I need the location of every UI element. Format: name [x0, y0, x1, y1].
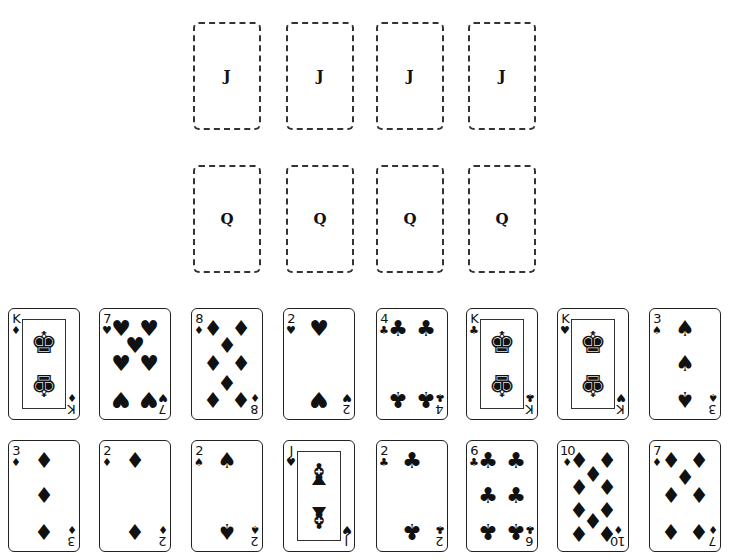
slot-label: Q: [403, 210, 416, 228]
clubs-pip-icon: ♣: [478, 485, 498, 507]
card-corner-index: 2♥: [286, 312, 296, 336]
clubs-pip-icon: ♣: [388, 388, 408, 410]
hearts-icon: ♥: [560, 325, 570, 336]
card-2-of-clubs[interactable]: 2♣2♣♣♣: [376, 440, 448, 552]
court-figure-icon: ♝: [298, 452, 340, 496]
jack-foundation-slot[interactable]: J: [376, 22, 444, 130]
spades-pip-icon: ♠: [675, 388, 695, 410]
card-corner-index: 2♠: [194, 444, 204, 468]
card-7-of-hearts[interactable]: 7♥7♥♥♥♥♥♥♥♥: [99, 308, 171, 420]
hearts-icon: ♥: [616, 392, 626, 403]
spades-pip-icon: ♠: [217, 450, 237, 472]
diamonds-pip-icon: ♦: [689, 520, 709, 542]
card-corner-index: 3♠: [708, 392, 718, 416]
card-rank: 7: [709, 535, 716, 548]
card-8-of-diamonds[interactable]: 8♦8♦♦♦♦♦♦♦♦♦: [191, 308, 263, 420]
diamonds-pip-icon: ♦: [34, 485, 54, 507]
jack-foundation-slot[interactable]: J: [286, 22, 354, 130]
card-k-of-hearts[interactable]: K♥K♥♚♚: [557, 308, 629, 420]
card-rank: 3: [68, 535, 75, 548]
card-rank: 4: [436, 403, 443, 416]
card-rank: 8: [251, 403, 258, 416]
card-rank: K: [617, 403, 625, 416]
card-rank: 2: [159, 535, 166, 548]
card-corner-index: 2♣: [435, 524, 445, 548]
diamonds-pip-icon: ♦: [231, 388, 251, 410]
king-portrait: ♚♚: [22, 319, 66, 409]
hearts-pip-icon: ♥: [139, 353, 159, 375]
clubs-pip-icon: ♣: [478, 520, 498, 542]
card-6-of-clubs[interactable]: 6♣6♣♣♣♣♣♣♣: [466, 440, 538, 552]
diamonds-pip-icon: ♦: [597, 477, 617, 499]
hearts-icon: ♥: [286, 457, 296, 468]
card-2-of-hearts[interactable]: 2♥2♥♥♥: [283, 308, 355, 420]
card-corner-index: K♣: [469, 312, 479, 336]
card-corner-index: 2♦: [158, 524, 168, 548]
clubs-icon: ♣: [379, 457, 389, 468]
diamonds-pip-icon: ♦: [125, 520, 145, 542]
card-rank: K: [68, 403, 76, 416]
court-figure-icon: ♝: [298, 496, 340, 540]
card-corner-index: 2♥: [342, 392, 352, 416]
clubs-pip-icon: ♣: [402, 450, 422, 472]
clubs-icon: ♣: [525, 392, 535, 403]
slot-label: J: [316, 67, 323, 85]
card-3-of-diamonds[interactable]: 3♦3♦♦♦♦: [8, 440, 80, 552]
jack-foundation-slot[interactable]: J: [193, 22, 261, 130]
card-corner-index: J♥: [342, 524, 352, 548]
card-k-of-diamonds[interactable]: K♦K♦♚♚: [8, 308, 80, 420]
card-corner-index: 7♥: [158, 392, 168, 416]
queen-foundation-slot[interactable]: Q: [286, 165, 354, 273]
slot-label: J: [406, 67, 413, 85]
hearts-icon: ♥: [286, 325, 296, 336]
court-figure-icon: ♚: [572, 364, 614, 408]
card-4-of-clubs[interactable]: 4♣4♣♣♣♣♣: [376, 308, 448, 420]
diamonds-icon: ♦: [67, 524, 77, 535]
card-2-of-spades[interactable]: 2♠2♠♠♠: [191, 440, 263, 552]
diamonds-icon: ♦: [11, 325, 21, 336]
card-7-of-diamonds[interactable]: 7♦7♦♦♦♦♦♦♦♦: [649, 440, 721, 552]
diamonds-pip-icon: ♦: [34, 520, 54, 542]
diamonds-icon: ♦: [158, 524, 168, 535]
card-rank: 2: [436, 535, 443, 548]
clubs-icon: ♣: [435, 524, 445, 535]
diamonds-icon: ♦: [11, 457, 21, 468]
hearts-icon: ♥: [342, 392, 352, 403]
card-corner-index: 8♦: [250, 392, 260, 416]
clubs-pip-icon: ♣: [388, 318, 408, 340]
slot-label: Q: [495, 210, 508, 228]
hearts-pip-icon: ♥: [309, 388, 329, 410]
king-portrait: ♚♚: [480, 319, 524, 409]
queen-foundation-slot[interactable]: Q: [468, 165, 536, 273]
queen-foundation-slot[interactable]: Q: [376, 165, 444, 273]
card-corner-index: 3♦: [11, 444, 21, 468]
clubs-pip-icon: ♣: [478, 450, 498, 472]
card-corner-index: 6♣: [525, 524, 535, 548]
card-corner-index: 7♦: [708, 524, 718, 548]
slot-label: Q: [220, 210, 233, 228]
hearts-pip-icon: ♥: [111, 388, 131, 410]
clubs-icon: ♣: [435, 392, 445, 403]
spades-pip-icon: ♠: [675, 353, 695, 375]
card-2-of-diamonds[interactable]: 2♦2♦♦♦: [99, 440, 171, 552]
court-figure-icon: ♚: [481, 320, 523, 364]
card-rank: 6: [526, 535, 533, 548]
clubs-pip-icon: ♣: [506, 450, 526, 472]
card-3-of-spades[interactable]: 3♠3♠♠♠♠: [649, 308, 721, 420]
clubs-icon: ♣: [525, 524, 535, 535]
card-rank: 7: [159, 403, 166, 416]
card-j-of-hearts[interactable]: J♥J♥♝♝: [283, 440, 355, 552]
spades-icon: ♠: [194, 457, 204, 468]
card-corner-index: K♣: [525, 392, 535, 416]
diamonds-pip-icon: ♦: [34, 450, 54, 472]
queen-foundation-slot[interactable]: Q: [193, 165, 261, 273]
spades-icon: ♠: [652, 325, 662, 336]
card-10-of-diamonds[interactable]: 10♦10♦♦♦♦♦♦♦♦♦♦♦: [557, 440, 629, 552]
card-corner-index: 2♠: [250, 524, 260, 548]
jack-foundation-slot[interactable]: J: [468, 22, 536, 130]
card-rank: 2: [251, 535, 258, 548]
clubs-pip-icon: ♣: [416, 318, 436, 340]
card-corner-index: 2♦: [102, 444, 112, 468]
card-k-of-clubs[interactable]: K♣K♣♚♚: [466, 308, 538, 420]
diamonds-pip-icon: ♦: [661, 520, 681, 542]
